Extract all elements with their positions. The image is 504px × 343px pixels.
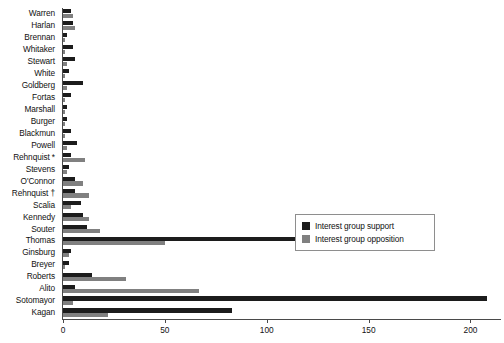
x-axis-line [62,319,501,320]
bar-support [63,296,487,300]
legend-swatch-support-icon [302,222,310,230]
bar-opposition [63,301,73,305]
category-label: Ginsburg [0,247,55,259]
bar-group [63,92,501,104]
bar-chart: WarrenHarlanBrennanWhitakerStewartWhiteG… [0,0,504,343]
bar-group [63,307,501,319]
category-label: White [0,68,55,80]
bar-group [63,152,501,164]
bar-group [63,283,501,295]
x-axis-tick-label: 50 [160,325,169,335]
bar-group [63,199,501,211]
bar-group [63,175,501,187]
bar-support [63,177,75,181]
category-label: Roberts [0,271,55,283]
bar-support [63,237,307,241]
bar-support [63,81,83,85]
legend-swatch-opposition-icon [302,235,310,243]
bar-support [63,9,71,13]
category-label: Scalia [0,200,55,212]
bar-group [63,68,501,80]
category-label: Thomas [0,235,55,247]
category-label: Kagan [0,307,55,319]
bar-support [63,105,67,109]
bar-support [63,33,67,37]
bar-group [63,295,501,307]
bar-support [63,141,77,145]
category-label: Blackmun [0,128,55,140]
bar-group [63,56,501,68]
bar-group [63,8,501,20]
x-axis-tick-mark [267,319,268,323]
bar-support [63,285,75,289]
x-axis-tick-mark [470,319,471,323]
category-label: Brennan [0,32,55,44]
legend-label-support: Interest group support [315,221,394,231]
bar-support [63,93,71,97]
category-label: Harlan [0,20,55,32]
category-label: Breyer [0,259,55,271]
bar-opposition [63,277,126,281]
bar-support [63,117,67,121]
category-label: Rehnquist † [0,188,55,200]
bar-group [63,116,501,128]
bar-support [63,273,92,277]
bar-opposition [63,229,100,233]
bar-opposition [63,181,83,185]
bar-group [63,164,501,176]
category-label: Whitaker [0,44,55,56]
bar-opposition [63,74,65,78]
x-axis-tick-mark [63,319,64,323]
category-label: Burger [0,116,55,128]
x-axis-tick-mark [369,319,370,323]
bar-support [63,225,87,229]
x-axis-tick-label: 200 [464,325,478,335]
category-axis-labels: WarrenHarlanBrennanWhitakerStewartWhiteG… [0,8,59,319]
bar-opposition [63,98,65,102]
bar-opposition [63,253,69,257]
bar-opposition [63,134,65,138]
bar-opposition [63,26,75,30]
bar-group [63,44,501,56]
bar-opposition [63,265,65,269]
category-label: Goldberg [0,80,55,92]
bar-group [63,80,501,92]
bar-opposition [63,217,89,221]
bar-opposition [63,50,65,54]
bar-opposition [63,122,65,126]
legend-item-opposition: Interest group opposition [302,232,428,245]
bar-group [63,32,501,44]
legend-label-opposition: Interest group opposition [315,234,404,244]
plot-area: 050100150200 [63,8,501,319]
bar-opposition [63,241,165,245]
x-axis-tick-label: 150 [362,325,376,335]
x-axis-tick-label: 100 [260,325,274,335]
bar-opposition [63,193,89,197]
bar-group [63,247,501,259]
category-label: Stewart [0,56,55,68]
bar-support [63,201,81,205]
bar-group [63,20,501,32]
bar-group [63,128,501,140]
category-label: Kennedy [0,212,55,224]
bar-support [63,261,69,265]
category-label: Fortas [0,92,55,104]
chart-legend: Interest group support Interest group op… [295,214,435,251]
bar-group [63,235,501,247]
bar-support [63,213,83,217]
bar-opposition [63,313,108,317]
bar-group [63,271,501,283]
bar-support [63,308,232,312]
bar-support [63,129,71,133]
category-label: Warren [0,8,55,20]
bar-group [63,223,501,235]
category-label: Alito [0,283,55,295]
bar-opposition [63,205,71,209]
bar-opposition [63,86,67,90]
category-label: Powell [0,140,55,152]
category-label: Rehnquist * [0,152,55,164]
bar-opposition [63,158,85,162]
bar-support [63,45,73,49]
category-label: Marshall [0,104,55,116]
category-label: Stevens [0,164,55,176]
